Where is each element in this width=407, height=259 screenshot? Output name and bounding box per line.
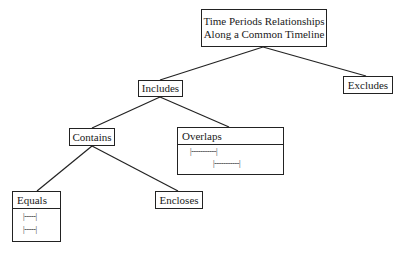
contains-label: Contains	[72, 131, 111, 144]
root-node: Time Periods Relationships Along a Commo…	[201, 9, 327, 47]
encloses-label: Encloses	[159, 194, 198, 207]
edge-includes-contains	[92, 97, 160, 128]
root-label-line2: Along a Common Timeline	[204, 28, 325, 41]
excludes-label: Excludes	[348, 79, 388, 92]
overlaps-node: Overlaps |-----------| |-----------|	[177, 127, 284, 175]
encloses-node: Encloses	[155, 191, 203, 209]
equals-timelines: |-----| |-----|	[13, 209, 60, 243]
edge-includes-overlaps	[160, 97, 229, 127]
includes-label: Includes	[142, 82, 179, 95]
overlaps-timeline-2: |-----------|	[213, 158, 240, 170]
equals-timeline-1: |-----|	[23, 211, 37, 223]
edge-contains-encloses	[92, 146, 178, 191]
overlaps-label: Overlaps	[178, 128, 283, 145]
contains-node: Contains	[69, 128, 115, 146]
edge-root-excludes	[263, 47, 366, 76]
equals-timeline-2: |-----|	[23, 224, 37, 236]
overlaps-timeline-1: |-----------|	[190, 146, 217, 158]
overlaps-timelines: |-----------| |-----------|	[178, 145, 283, 177]
edge-contains-equals	[37, 146, 92, 191]
includes-node: Includes	[138, 80, 183, 97]
edge-root-includes	[160, 47, 263, 80]
equals-label: Equals	[13, 192, 60, 209]
equals-node: Equals |-----| |-----|	[12, 191, 61, 242]
excludes-node: Excludes	[343, 76, 393, 94]
root-label-line1: Time Periods Relationships	[203, 15, 324, 28]
